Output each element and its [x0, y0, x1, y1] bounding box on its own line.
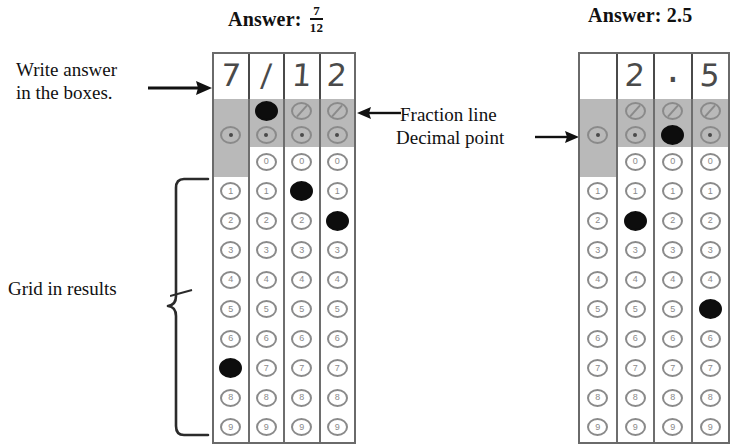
digit-bubble-left-4-2[interactable]: 2 — [326, 211, 349, 231]
digit-bubble-left-3-8[interactable]: 8 — [291, 389, 312, 407]
digit-cell-left-2-9[interactable]: 9 — [250, 413, 284, 443]
digit-bubble-left-2-4[interactable]: 4 — [256, 271, 277, 289]
digit-cell-right-1-6[interactable]: 6 — [580, 324, 616, 354]
digit-bubble-right-2-6[interactable]: 6 — [625, 330, 646, 348]
digit-cell-left-4-6[interactable]: 6 — [321, 324, 355, 354]
write-answer-row-right[interactable]: 2 . 5 — [580, 54, 728, 99]
digit-bubble-right-2-0[interactable]: 0 — [625, 153, 646, 171]
digit-cell-right-3-2[interactable]: 2 — [655, 206, 691, 236]
digit-cell-right-2-9[interactable]: 9 — [618, 413, 654, 443]
fraction-bubble-left-4[interactable] — [327, 102, 348, 120]
write-cell-right-2[interactable]: 2 — [616, 54, 654, 99]
digit-cell-left-4-4[interactable]: 4 — [321, 265, 355, 295]
digit-bubble-left-3-1[interactable]: 1 — [290, 181, 313, 201]
digit-cell-left-1-7[interactable]: 7 — [214, 354, 248, 384]
digit-column-right-3[interactable]: 0123456789 — [653, 147, 691, 442]
digit-bubble-left-1-5[interactable]: 5 — [220, 300, 241, 318]
digit-cell-left-3-6[interactable]: 6 — [285, 324, 319, 354]
write-answer-row-left[interactable]: 7 / 1 2 — [214, 54, 354, 99]
digit-cell-right-1-3[interactable]: 3 — [580, 236, 616, 266]
digit-bubble-left-2-0[interactable]: 0 — [256, 153, 277, 171]
digit-cell-left-3-7[interactable]: 7 — [285, 354, 319, 384]
fraction-line-row-left[interactable] — [214, 99, 354, 123]
digit-cell-left-2-3[interactable]: 3 — [250, 236, 284, 266]
digit-column-right-2[interactable]: 0123456789 — [616, 147, 654, 442]
digit-bubble-left-3-4[interactable]: 4 — [291, 271, 312, 289]
digit-bubble-left-3-9[interactable]: 9 — [291, 418, 312, 436]
digit-cell-right-2-2[interactable]: 2 — [618, 206, 654, 236]
fraction-bubble-left-3[interactable] — [291, 102, 312, 120]
digit-cell-left-2-6[interactable]: 6 — [250, 324, 284, 354]
digit-cell-left-4-5[interactable]: 5 — [321, 295, 355, 325]
digit-cell-left-3-0[interactable]: 0 — [285, 147, 319, 177]
digit-bubble-right-2-4[interactable]: 4 — [625, 271, 646, 289]
digit-cell-right-3-9[interactable]: 9 — [655, 413, 691, 443]
digit-cell-right-4-4[interactable]: 4 — [693, 265, 729, 295]
digit-bubble-right-4-7[interactable]: 7 — [700, 359, 721, 377]
digit-bubble-right-1-6[interactable]: 6 — [587, 330, 608, 348]
digit-column-right-1[interactable]: 123456789 — [580, 147, 616, 442]
digit-bubble-right-1-7[interactable]: 7 — [587, 359, 608, 377]
digit-cell-right-2-6[interactable]: 6 — [618, 324, 654, 354]
write-cell-right-1[interactable] — [580, 54, 616, 99]
decimal-bubble-cell-right-4[interactable] — [691, 123, 729, 147]
digit-bubble-right-4-9[interactable]: 9 — [700, 418, 721, 436]
digit-cell-right-2-4[interactable]: 4 — [618, 265, 654, 295]
digit-bubble-left-2-3[interactable]: 3 — [256, 241, 277, 259]
digit-cell-right-3-5[interactable]: 5 — [655, 295, 691, 325]
digit-cell-left-4-0[interactable]: 0 — [321, 147, 355, 177]
digit-cell-right-2-5[interactable]: 5 — [618, 295, 654, 325]
digit-cell-right-1-9[interactable]: 9 — [580, 413, 616, 443]
digit-bubble-right-2-8[interactable]: 8 — [625, 389, 646, 407]
decimal-bubble-left-1[interactable] — [220, 126, 241, 144]
decimal-bubble-cell-left-4[interactable] — [319, 123, 355, 147]
digit-cell-right-2-7[interactable]: 7 — [618, 354, 654, 384]
digit-bubble-right-4-0[interactable]: 0 — [700, 153, 721, 171]
digit-bubble-left-1-3[interactable]: 3 — [220, 241, 241, 259]
decimal-bubble-cell-right-2[interactable] — [616, 123, 654, 147]
digit-bubble-left-2-8[interactable]: 8 — [256, 389, 277, 407]
fraction-bubble-cell-right-4[interactable] — [691, 99, 729, 123]
digit-bubble-right-3-3[interactable]: 3 — [662, 241, 683, 259]
digit-cell-left-2-0[interactable]: 0 — [250, 147, 284, 177]
digit-bubble-right-4-1[interactable]: 1 — [700, 182, 721, 200]
fraction-bubble-right-3[interactable] — [662, 102, 683, 120]
digit-cell-left-1-9[interactable]: 9 — [214, 413, 248, 443]
digit-cell-right-1-5[interactable]: 5 — [580, 295, 616, 325]
digit-cell-right-4-0[interactable]: 0 — [693, 147, 729, 177]
digit-bubble-left-4-0[interactable]: 0 — [327, 153, 348, 171]
digit-column-left-4[interactable]: 0123456789 — [319, 147, 355, 442]
digit-cell-left-3-1[interactable]: 1 — [285, 177, 319, 207]
digit-bubble-left-4-4[interactable]: 4 — [327, 271, 348, 289]
digit-bubble-left-1-4[interactable]: 4 — [220, 271, 241, 289]
digit-cell-left-4-2[interactable]: 2 — [321, 206, 355, 236]
digit-cell-left-3-8[interactable]: 8 — [285, 383, 319, 413]
fraction-line-row-right[interactable] — [580, 99, 728, 123]
digit-bubble-right-3-9[interactable]: 9 — [662, 418, 683, 436]
digit-cell-right-3-7[interactable]: 7 — [655, 354, 691, 384]
answer-grid-left[interactable]: 7 / 1 2 — [212, 52, 356, 444]
write-cell-right-3[interactable]: . — [653, 54, 691, 99]
digit-cell-left-4-8[interactable]: 8 — [321, 383, 355, 413]
digit-cell-left-3-9[interactable]: 9 — [285, 413, 319, 443]
decimal-bubble-left-3[interactable] — [291, 126, 312, 144]
digit-bubble-right-4-4[interactable]: 4 — [700, 271, 721, 289]
digit-bubble-right-2-1[interactable]: 1 — [625, 182, 646, 200]
digit-cell-right-2-8[interactable]: 8 — [618, 383, 654, 413]
digit-cell-right-3-4[interactable]: 4 — [655, 265, 691, 295]
digit-bubble-left-4-3[interactable]: 3 — [327, 241, 348, 259]
digit-bubble-area-right[interactable]: 123456789012345678901234567890123456789 — [580, 147, 728, 442]
digit-bubble-right-1-2[interactable]: 2 — [587, 212, 608, 230]
decimal-bubble-cell-left-1[interactable] — [214, 123, 248, 147]
digit-bubble-right-3-1[interactable]: 1 — [662, 182, 683, 200]
fraction-bubble-right-4[interactable] — [700, 102, 721, 120]
digit-bubble-left-3-2[interactable]: 2 — [291, 212, 312, 230]
decimal-bubble-cell-left-3[interactable] — [283, 123, 319, 147]
digit-cell-left-1-3[interactable]: 3 — [214, 236, 248, 266]
digit-cell-right-4-5[interactable]: 5 — [693, 295, 729, 325]
digit-bubble-right-3-5[interactable]: 5 — [662, 300, 683, 318]
fraction-bubble-right-2[interactable] — [625, 102, 646, 120]
digit-cell-left-2-5[interactable]: 5 — [250, 295, 284, 325]
digit-cell-right-4-1[interactable]: 1 — [693, 177, 729, 207]
digit-cell-right-4-8[interactable]: 8 — [693, 383, 729, 413]
